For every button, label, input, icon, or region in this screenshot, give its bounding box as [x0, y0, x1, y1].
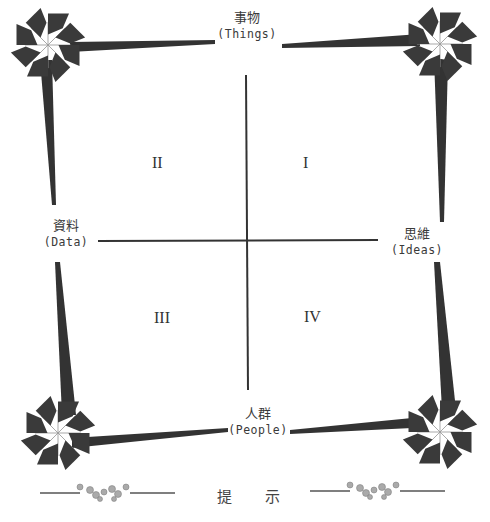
pinwheel-bottom-right-icon [403, 395, 477, 469]
quadrant-diagram [0, 0, 490, 522]
floral-divider-right-icon [310, 482, 445, 500]
axis-label-left-en: (Data) [36, 234, 96, 251]
vertical-axis [246, 75, 248, 390]
floral-divider-left-icon [40, 484, 175, 502]
axis-label-bottom-zh: 人群 [220, 405, 296, 422]
axis-label-right-zh: 思維 [380, 225, 454, 242]
hint-heading: 提 示 [217, 485, 294, 506]
axis-label-right: 思維 (Ideas) [380, 225, 454, 259]
quadrant-label-I: I [303, 154, 308, 172]
axis-label-left-zh: 資料 [36, 217, 96, 234]
quadrant-label-II: II [152, 154, 163, 172]
axis-label-top: 事物 (Things) [212, 9, 282, 43]
axis-label-top-en: (Things) [212, 26, 282, 43]
axis-label-right-en: (Ideas) [380, 242, 454, 259]
quadrant-label-III: III [154, 309, 170, 327]
horizontal-axis [98, 240, 378, 241]
axis-label-left: 資料 (Data) [36, 217, 96, 251]
quadrant-label-IV: IV [304, 308, 321, 326]
axis-label-bottom: 人群 (People) [220, 405, 296, 439]
axis-label-top-zh: 事物 [212, 9, 282, 26]
axis-label-bottom-en: (People) [220, 422, 296, 439]
pinwheel-bottom-left-icon [21, 396, 95, 470]
